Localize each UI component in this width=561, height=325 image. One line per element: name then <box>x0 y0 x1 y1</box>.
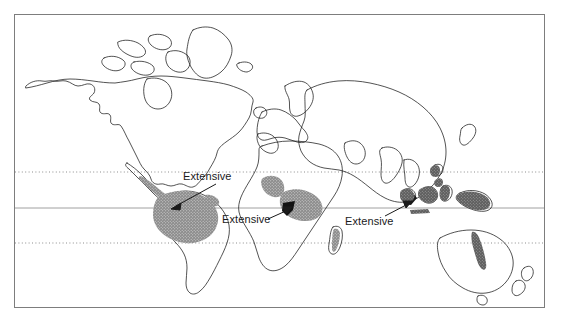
annotation-label-amazon: Extensive <box>183 170 232 182</box>
annotation-label-congo: Extensive <box>222 213 271 225</box>
figure-border <box>15 15 545 308</box>
world-map-svg <box>0 0 561 325</box>
annotation-label-seasia: Extensive <box>345 215 394 227</box>
figure-canvas: Extensive Extensive Extensive <box>0 0 561 325</box>
